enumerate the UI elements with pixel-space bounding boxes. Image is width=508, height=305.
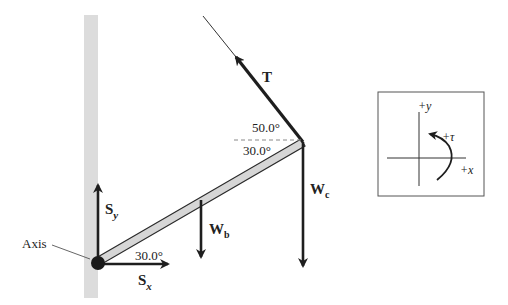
wall [84, 15, 98, 298]
pivot-axis-point [91, 256, 105, 270]
support-y-label: Sy [105, 201, 118, 221]
inset-x-label: +x [460, 163, 474, 177]
beam-weight-main: W [209, 221, 224, 237]
crate-weight-main: W [310, 181, 325, 197]
inset-y-label: +y [418, 99, 432, 113]
cable-angle-label: 50.0° [252, 120, 280, 135]
beam-weight-sub: b [224, 229, 230, 240]
support-x-sub: x [145, 280, 152, 292]
sign-convention-inset: +y +x +τ [378, 92, 484, 196]
crate-weight-sub: c [325, 189, 330, 200]
support-x-label: Sx [138, 272, 152, 292]
beam-weight-label: Wb [209, 221, 230, 240]
support-y-sub: y [111, 209, 118, 221]
beam-angle-bottom-label: 30.0° [135, 248, 163, 263]
inset-torque-label: +τ [442, 130, 455, 144]
cable-line [203, 16, 236, 57]
free-body-diagram: T 50.0° 30.0° Wc Wb Sy Sx 30.0° Axis +y … [0, 0, 508, 305]
tension-label: T [262, 69, 272, 85]
beam-angle-top-label: 30.0° [243, 143, 271, 158]
axis-label: Axis [22, 236, 47, 251]
crate-weight-label: Wc [310, 181, 330, 200]
support-y-main: S [105, 201, 113, 217]
support-x-main: S [138, 272, 146, 288]
